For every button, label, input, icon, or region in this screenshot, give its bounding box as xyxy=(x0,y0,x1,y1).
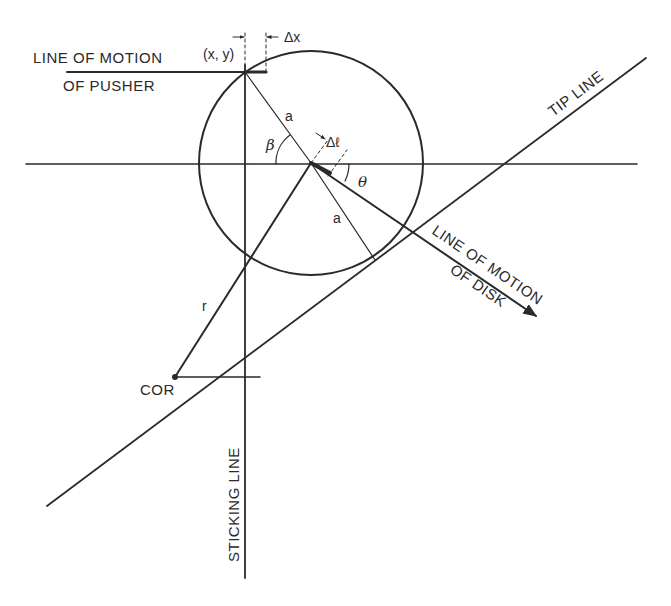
pushing-mechanics-diagram: LINE OF MOTION OF PUSHER (x, y) Δx a β Δ… xyxy=(0,0,671,606)
delta-l-arrow xyxy=(316,133,325,139)
r-line xyxy=(175,163,311,377)
r-label: r xyxy=(202,298,207,314)
beta-label: β xyxy=(265,136,275,154)
theta-arc xyxy=(345,164,349,181)
pusher-line-label-2: OF PUSHER xyxy=(63,77,155,94)
radius-lower-label: a xyxy=(333,210,341,226)
theta-label: θ xyxy=(358,173,367,191)
delta-x-label: Δx xyxy=(284,29,300,45)
beta-arc xyxy=(276,135,290,164)
cor-point xyxy=(172,374,178,380)
delta-l-label: Δℓ xyxy=(326,134,340,150)
sticking-line-label: STICKING LINE xyxy=(225,447,242,562)
radius-upper xyxy=(245,72,311,163)
cor-label: COR xyxy=(140,381,175,398)
contact-point-label: (x, y) xyxy=(203,46,234,62)
radius-upper-label: a xyxy=(285,108,293,124)
pusher-line-label-1: LINE OF MOTION xyxy=(33,49,163,66)
tip-line xyxy=(47,58,646,506)
